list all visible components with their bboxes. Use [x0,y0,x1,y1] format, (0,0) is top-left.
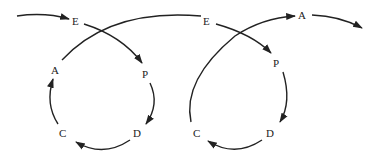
node-p1: P [142,68,148,80]
edge-e2-p2 [216,24,271,53]
edge-p1-d1 [146,83,154,124]
node-c2: C [193,127,200,139]
node-a2: A [298,9,306,21]
node-d2: D [266,127,274,139]
edge-e1-p1 [84,24,142,63]
edge-d2-c2 [208,140,262,149]
node-p2: P [273,57,279,69]
node-a1: A [51,64,59,76]
node-c1: C [59,127,66,139]
edge-a1-e2 [62,15,201,60]
cycle-diagram: E P D C A E P D C A [0,0,374,158]
entry-arrow [17,15,69,19]
node-d1: D [133,127,141,139]
exit-arrow [312,15,362,28]
edge-c1-a1 [50,79,58,124]
node-e1: E [72,15,79,27]
edge-p2-d2 [280,72,287,122]
node-e2: E [203,15,210,27]
edge-c2-a2 [190,16,295,122]
edge-d1-c1 [76,140,130,150]
